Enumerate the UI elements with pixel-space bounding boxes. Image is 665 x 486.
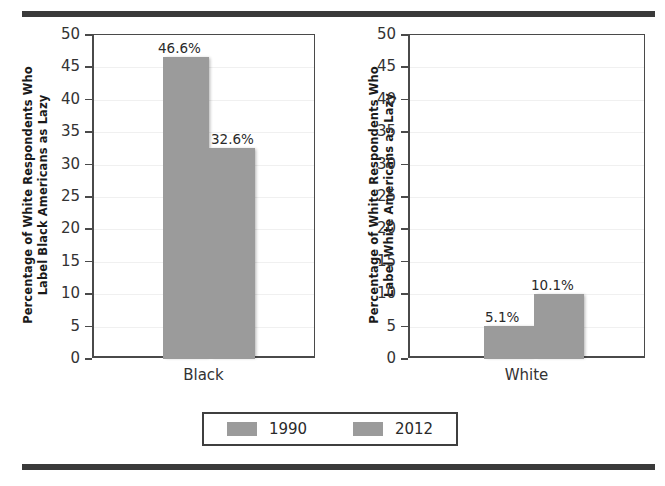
y-axis-label-10: 10 [50,284,80,302]
bar-value-white-2012: 10.1% [531,277,574,293]
y-tick-20 [85,228,92,230]
gridline-25 [410,197,644,198]
y-axis-label-50: 50 [366,25,396,43]
y-tick-35 [85,131,92,133]
y-axis-label-5: 5 [50,317,80,335]
y-tick-40 [401,99,408,101]
bar-value-white-1990: 5.1% [485,309,519,325]
y-tick-30 [401,164,408,166]
y-tick-50 [85,34,92,36]
y-tick-30 [85,164,92,166]
gridline-35 [410,132,644,133]
y-axis-label-45: 45 [366,57,396,75]
y-axis-label-20: 20 [366,219,396,237]
y-tick-45 [85,66,92,68]
gridline-45 [410,67,644,68]
y-tick-10 [401,293,408,295]
y-axis-label-40: 40 [50,90,80,108]
figure-bottom-rule [22,464,655,470]
bar-value-black-1990: 46.6% [158,40,201,56]
y-axis-label-15: 15 [50,252,80,270]
y-tick-5 [85,326,92,328]
gridline-10 [410,294,644,295]
gridline-15 [410,262,644,263]
bar-value-black-2012: 32.6% [211,131,254,147]
y-axis-title-line-2: Label Black Americans as Lazy [36,66,51,324]
y-tick-25 [401,196,408,198]
y-axis-label-20: 20 [50,219,80,237]
y-tick-50 [401,34,408,36]
y-axis-label-5: 5 [366,317,396,335]
gridline-30 [410,165,644,166]
plot-area-black: 46.6% 32.6% [92,34,315,358]
x-category-label-white: White [408,366,645,384]
y-axis-label-0: 0 [50,349,80,367]
bar-white-2012[interactable] [534,294,584,360]
y-axis-label-25: 25 [366,187,396,205]
gridline-20 [410,229,644,230]
y-axis-label-10: 10 [366,284,396,302]
y-axis-label-40: 40 [366,90,396,108]
chart-legend: 1990 2012 [202,412,458,446]
y-tick-35 [401,131,408,133]
y-axis-label-50: 50 [50,25,80,43]
plot-area-white: 5.1% 10.1% [408,34,645,358]
y-tick-20 [401,228,408,230]
x-category-label-black: Black [92,366,315,384]
y-tick-40 [85,99,92,101]
y-tick-25 [85,196,92,198]
bar-black-1990[interactable] [163,57,209,359]
bar-black-2012[interactable] [209,148,255,359]
legend-label-2012: 2012 [395,420,433,438]
y-axis-label-45: 45 [50,57,80,75]
y-tick-10 [85,293,92,295]
legend-swatch-1990-icon [227,422,257,436]
y-tick-15 [401,261,408,263]
legend-item-2012[interactable]: 2012 [353,420,433,438]
y-axis-label-15: 15 [366,252,396,270]
y-axis-label-0: 0 [366,349,396,367]
y-axis-label-25: 25 [50,187,80,205]
legend-item-1990[interactable]: 1990 [227,420,307,438]
y-axis-title-line-1: Percentage of White Respondents Who [21,66,36,324]
y-tick-0 [85,358,92,360]
y-tick-45 [401,66,408,68]
legend-swatch-2012-icon [353,422,383,436]
y-axis-label-30: 30 [366,155,396,173]
gridline-40 [410,100,644,101]
y-tick-0 [401,358,408,360]
y-axis-label-35: 35 [50,122,80,140]
y-axis-label-35: 35 [366,122,396,140]
y-axis-label-30: 30 [50,155,80,173]
bar-white-1990[interactable] [484,326,534,359]
y-tick-5 [401,326,408,328]
legend-label-1990: 1990 [269,420,307,438]
y-tick-15 [85,261,92,263]
